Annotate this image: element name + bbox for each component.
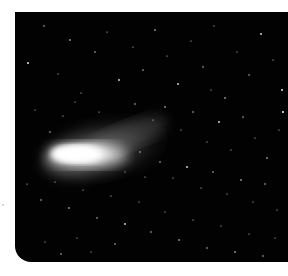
comet-starfield-graphic: [15, 12, 288, 262]
margin-speck: [2, 204, 4, 206]
comet-photo: [15, 12, 288, 262]
comet-head: [47, 142, 127, 168]
